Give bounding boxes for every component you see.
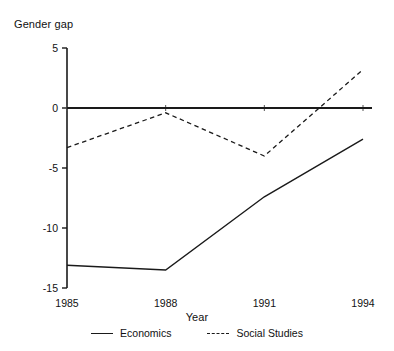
tick-marks [62, 48, 363, 288]
x-axis-title: Year [0, 311, 394, 323]
x-tick-label: 1991 [234, 297, 294, 309]
series-line-social-studies [67, 70, 363, 156]
x-tick-label: 1988 [136, 297, 196, 309]
legend-line-swatch-icon [207, 333, 229, 334]
chart-legend: EconomicsSocial Studies [0, 327, 394, 339]
legend-label: Economics [120, 327, 171, 339]
data-series-group [67, 70, 363, 270]
x-tick-label: 1985 [37, 297, 97, 309]
line-chart: Gender gap 50-5-10-15 1985198819911994 Y… [0, 0, 394, 351]
y-tick-label: 0 [24, 102, 58, 114]
y-axis-title: Gender gap [14, 18, 73, 30]
y-tick-label: -10 [24, 222, 58, 234]
legend-line-swatch-icon [91, 333, 113, 334]
legend-item: Social Studies [207, 327, 303, 339]
y-tick-label: -15 [24, 282, 58, 294]
x-tick-label: 1994 [333, 297, 393, 309]
legend-label: Social Studies [236, 327, 303, 339]
y-tick-label: -5 [24, 162, 58, 174]
y-tick-label: 5 [24, 42, 58, 54]
series-line-economics [67, 139, 363, 270]
legend-item: Economics [91, 327, 171, 339]
